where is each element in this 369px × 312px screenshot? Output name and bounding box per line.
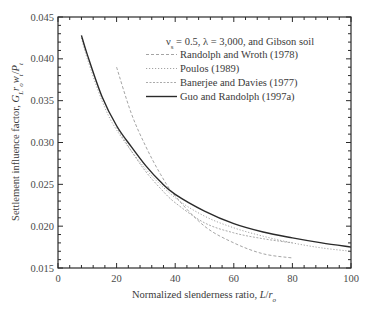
y-axis-title: Settlement influence factor, GLrowt/Pt — [10, 62, 25, 221]
x-tick-label: 60 — [229, 273, 240, 284]
chart: 0204060801000.0150.0200.0250.0300.0350.0… — [0, 0, 369, 312]
legend-label: Poulos (1989) — [180, 63, 240, 75]
legend-label: Randolph and Wroth (1978) — [180, 49, 299, 61]
x-tick-label: 20 — [111, 273, 122, 284]
y-tick-label: 0.040 — [30, 53, 54, 64]
y-tick-label: 0.035 — [30, 95, 54, 106]
y-tick-label: 0.025 — [30, 179, 54, 190]
series-line — [117, 127, 293, 242]
x-tick-label: 0 — [55, 273, 60, 284]
x-tick-label: 100 — [343, 273, 359, 284]
x-tick-label: 40 — [170, 273, 181, 284]
y-tick-label: 0.045 — [30, 12, 54, 23]
x-axis-title: Normalized slenderness ratio, L/ro — [132, 289, 277, 304]
legend: νs = 0.5, λ = 3,000, and Gibson soil Ran… — [146, 36, 314, 103]
y-tick-label: 0.015 — [30, 263, 54, 274]
legend-label: Guo and Randolph (1997a) — [180, 91, 295, 103]
y-tick-label: 0.020 — [30, 221, 54, 232]
legend-label: Banerjee and Davies (1977) — [180, 77, 298, 89]
x-tick-label: 80 — [287, 273, 298, 284]
y-tick-label: 0.030 — [30, 137, 54, 148]
